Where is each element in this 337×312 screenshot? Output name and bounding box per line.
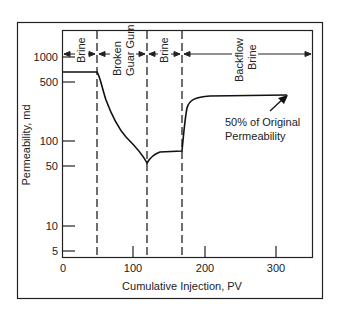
- x-tick-labels: 0 100 200 300: [60, 262, 285, 274]
- annotation-line-2: Permeability: [225, 130, 286, 142]
- y-tick-10: 10: [46, 220, 58, 232]
- phase-label-backflow-brine: Brine: [246, 44, 258, 70]
- annotation-arrow: [270, 95, 288, 111]
- y-tick-500: 500: [40, 76, 58, 88]
- chart: 1000 500 100 50 10 5 0 100 200 300 Cumul…: [0, 0, 337, 312]
- x-tick-100: 100: [124, 262, 142, 274]
- y-tick-5: 5: [52, 245, 58, 257]
- phase-label-brine-1: Brine: [75, 37, 87, 63]
- phase-label-broken: Broken: [111, 41, 123, 76]
- x-axis-label: Cumulative Injection, PV: [122, 280, 242, 292]
- phase-label-backflow: Backflow: [233, 38, 245, 82]
- y-tick-labels: 1000 500 100 50 10 5: [34, 51, 58, 257]
- x-tick-300: 300: [267, 262, 285, 274]
- x-tick-200: 200: [196, 262, 214, 274]
- annotation-line-1: 50% of Original: [225, 116, 300, 128]
- phase-label-guar-gum: Guar Gum: [124, 25, 136, 76]
- y-tick-50: 50: [46, 160, 58, 172]
- plot-area: [63, 31, 313, 258]
- y-ticks: [62, 57, 75, 251]
- x-tick-0: 0: [60, 262, 66, 274]
- y-tick-1000: 1000: [34, 51, 58, 63]
- y-axis-label: Permeability, md: [20, 104, 32, 185]
- phase-label-brine-2: Brine: [158, 37, 170, 63]
- y-tick-100: 100: [40, 135, 58, 147]
- phase-arrows: [64, 52, 311, 57]
- phase-boundaries: [97, 31, 182, 257]
- x-ticks: [133, 246, 276, 257]
